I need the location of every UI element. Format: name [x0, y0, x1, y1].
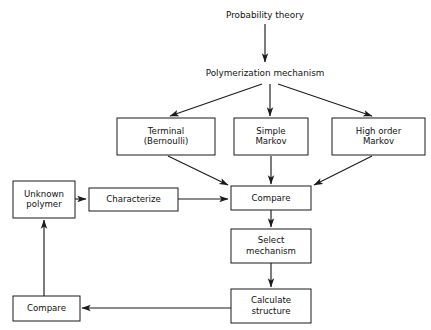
- node-label2-simple-markov: Markov: [255, 136, 286, 146]
- node-label-compare-main: Compare: [252, 193, 291, 203]
- edge-terminal-to-compare: [168, 156, 228, 185]
- node-label-simple-markov: Simple: [256, 126, 285, 136]
- node-label-calculate-structure: Calculate: [251, 295, 291, 305]
- flowchart-svg: Terminal(Bernoulli)SimpleMarkovHigh orde…: [0, 0, 431, 330]
- node-label2-select-mechanism: mechanism: [246, 246, 296, 256]
- node-label-high-order-markov: High order: [356, 126, 402, 136]
- node-label2-high-order-markov: Markov: [363, 136, 394, 146]
- node-simple-markov[interactable]: SimpleMarkov: [234, 118, 308, 155]
- node-label2-terminal-bernoulli: (Bernoulli): [144, 136, 189, 146]
- node-label-characterize: Characterize: [106, 194, 161, 204]
- node-terminal-bernoulli[interactable]: Terminal(Bernoulli): [117, 118, 215, 155]
- node-characterize[interactable]: Characterize: [89, 188, 178, 211]
- node-label2-unknown-polymer: polymer: [26, 199, 62, 209]
- edge-polymerization-to-terminal: [170, 84, 262, 116]
- node-calculate-structure[interactable]: Calculatestructure: [231, 289, 311, 323]
- label-probability-theory: Probability theory: [226, 10, 304, 20]
- node-label-unknown-polymer: Unknown: [24, 189, 64, 199]
- label-polymerization-mechanism: Polymerization mechanism: [206, 68, 325, 78]
- node-label2-calculate-structure: structure: [252, 306, 291, 316]
- node-label-terminal-bernoulli: Terminal: [147, 126, 184, 136]
- flowchart-canvas: Terminal(Bernoulli)SimpleMarkovHigh orde…: [0, 0, 431, 330]
- node-select-mechanism[interactable]: Selectmechanism: [231, 229, 311, 263]
- node-unknown-polymer[interactable]: Unknownpolymer: [13, 181, 75, 218]
- node-high-order-markov[interactable]: High orderMarkov: [332, 118, 425, 155]
- node-compare-main[interactable]: Compare: [231, 186, 311, 210]
- node-label-compare-bottom: Compare: [27, 303, 66, 313]
- node-compare-bottom[interactable]: Compare: [13, 296, 80, 321]
- edge-highorder-to-compare: [314, 156, 372, 185]
- edge-polymerization-to-highorder: [278, 84, 372, 116]
- node-layer: Terminal(Bernoulli)SimpleMarkovHigh orde…: [13, 118, 425, 323]
- node-label-select-mechanism: Select: [258, 235, 285, 245]
